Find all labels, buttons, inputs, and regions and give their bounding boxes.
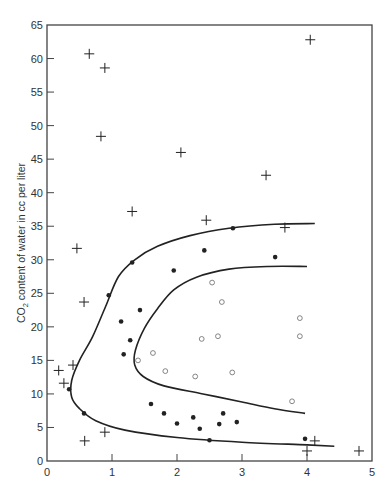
plus-marker bbox=[201, 215, 211, 225]
plus-marker bbox=[261, 170, 271, 180]
y-tick-label: 40 bbox=[31, 187, 43, 199]
y-axis-title-pre: CO bbox=[15, 307, 27, 323]
inner-boundary-curve bbox=[134, 266, 307, 413]
filled-dot-marker bbox=[138, 308, 143, 313]
y-tick-label: 50 bbox=[31, 120, 43, 132]
y-tick-label: 65 bbox=[31, 19, 43, 31]
y-tick-label: 30 bbox=[31, 254, 43, 266]
y-tick-label: 5 bbox=[37, 421, 43, 433]
x-tick-label: 5 bbox=[369, 466, 375, 478]
plus-marker bbox=[59, 378, 69, 388]
y-tick-label: 35 bbox=[31, 220, 43, 232]
filled-dot-marker bbox=[175, 421, 180, 426]
y-axis-title-post: content of water in cc per liter bbox=[15, 163, 27, 304]
boundary-curves bbox=[71, 224, 335, 447]
filled-dot-marker bbox=[128, 338, 133, 343]
filled-dot-marker bbox=[106, 293, 111, 298]
open-circle-marker bbox=[199, 337, 204, 342]
filled-dot-marker bbox=[303, 437, 308, 442]
filled-dot-marker bbox=[119, 319, 124, 324]
open-circle-marker bbox=[210, 280, 215, 285]
open-circle-marker bbox=[297, 316, 302, 321]
x-axis: 012345 bbox=[44, 454, 375, 478]
outer-boundary-curve bbox=[71, 224, 335, 447]
filled-dot-marker bbox=[82, 411, 87, 416]
y-tick-label: 20 bbox=[31, 321, 43, 333]
plus-marker bbox=[80, 436, 90, 446]
plus-marker bbox=[305, 35, 315, 45]
filled-dot-marker bbox=[197, 427, 202, 432]
filled-dot-marker bbox=[121, 352, 126, 357]
open-circle-marker bbox=[193, 374, 198, 379]
data-points bbox=[54, 35, 364, 456]
x-tick-label: 0 bbox=[44, 466, 50, 478]
filled-dot-marker bbox=[162, 411, 167, 416]
x-tick-label: 2 bbox=[174, 466, 180, 478]
y-tick-label: 15 bbox=[31, 354, 43, 366]
plus-marker bbox=[84, 49, 94, 59]
open-circle-marker bbox=[163, 369, 168, 374]
open-circle-marker bbox=[136, 358, 141, 363]
x-tick-label: 4 bbox=[304, 466, 310, 478]
filled-dot-marker bbox=[130, 260, 135, 265]
plus-marker bbox=[176, 147, 186, 157]
open-circle-marker bbox=[219, 300, 224, 305]
y-axis: 05101520253035404550556065 bbox=[31, 19, 54, 467]
filled-dot-marker bbox=[67, 387, 72, 392]
open-circle-marker bbox=[297, 334, 302, 339]
y-tick-label: 10 bbox=[31, 388, 43, 400]
y-axis-title: CO2 content of water in cc per liter bbox=[15, 163, 30, 323]
x-tick-label: 1 bbox=[109, 466, 115, 478]
filled-dot-marker bbox=[217, 422, 222, 427]
filled-dot-marker bbox=[202, 248, 207, 253]
y-tick-label: 0 bbox=[37, 455, 43, 467]
filled-dot-marker bbox=[207, 438, 212, 443]
plus-marker bbox=[96, 131, 106, 141]
y-tick-label: 60 bbox=[31, 53, 43, 65]
y-tick-label: 45 bbox=[31, 153, 43, 165]
y-tick-label: 25 bbox=[31, 287, 43, 299]
plus-marker bbox=[54, 365, 64, 375]
filled-dot-marker bbox=[149, 402, 154, 407]
scatter-chart: 05101520253035404550556065 012345 CO2 co… bbox=[0, 0, 392, 497]
filled-dot-marker bbox=[171, 268, 176, 273]
plus-marker bbox=[302, 446, 312, 456]
y-tick-label: 55 bbox=[31, 86, 43, 98]
plus-marker bbox=[79, 297, 89, 307]
filled-dot-marker bbox=[235, 420, 240, 425]
filled-dot-marker bbox=[273, 255, 278, 260]
filled-dot-marker bbox=[231, 226, 236, 231]
plus-marker bbox=[127, 206, 137, 216]
filled-dot-marker bbox=[221, 411, 226, 416]
x-tick-label: 3 bbox=[239, 466, 245, 478]
plus-marker bbox=[354, 446, 364, 456]
filled-dot-marker bbox=[191, 415, 196, 420]
open-circle-marker bbox=[151, 351, 156, 356]
plus-marker bbox=[100, 63, 110, 73]
open-circle-marker bbox=[216, 334, 221, 339]
plus-marker bbox=[100, 427, 110, 437]
open-circle-marker bbox=[230, 370, 235, 375]
plus-marker bbox=[72, 243, 82, 253]
open-circle-marker bbox=[290, 399, 295, 404]
